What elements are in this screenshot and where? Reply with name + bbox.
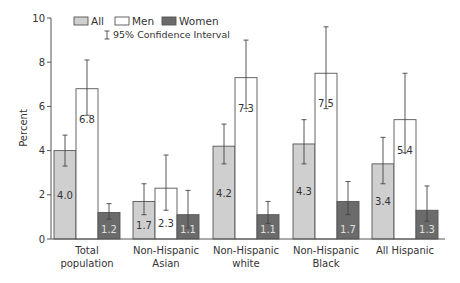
y-tick-label: 6 (39, 101, 45, 112)
y-tick-label: 4 (39, 145, 45, 156)
y-axis-label: Percent (18, 109, 29, 147)
y-tick-label: 8 (39, 57, 45, 68)
legend: AllMenWomen95% Confidence Interval (74, 15, 230, 40)
value-label: 6.8 (79, 114, 95, 125)
legend-swatch-all (74, 17, 88, 25)
bar-group: 1.72.31.1 (133, 155, 199, 239)
bars: 4.06.81.21.72.31.14.27.31.14.37.51.73.45… (54, 27, 438, 239)
bar-group: 4.37.51.7 (293, 27, 359, 239)
bar-chart: 0246810 Percent 4.06.81.21.72.31.14.27.3… (0, 0, 460, 283)
legend-swatch-men (115, 17, 129, 25)
category-label: Total (74, 245, 98, 256)
value-label: 4.3 (296, 186, 312, 197)
value-label: 7.5 (318, 98, 334, 109)
bar-group: 4.06.81.2 (54, 60, 120, 239)
x-axis: TotalpopulationNon-HispanicAsianNon-Hisp… (51, 239, 445, 269)
value-label: 2.3 (158, 218, 174, 229)
category-label: Non-Hispanic (293, 245, 359, 256)
category-label: Non-Hispanic (213, 245, 279, 256)
value-label: 1.2 (101, 224, 117, 235)
value-label: 7.3 (238, 103, 254, 114)
value-label: 4.2 (216, 188, 232, 199)
value-label: 1.1 (180, 224, 196, 235)
y-tick-label: 0 (39, 234, 45, 245)
category-label: population (60, 258, 113, 269)
legend-label: Women (179, 15, 219, 27)
value-label: 1.1 (260, 224, 276, 235)
bar-group: 3.45.41.3 (372, 73, 438, 239)
y-tick-label: 10 (32, 13, 45, 24)
category-label: Asian (152, 258, 179, 269)
legend-label: Men (132, 15, 154, 27)
value-label: 1.3 (419, 224, 435, 235)
category-label: Non-Hispanic (133, 245, 199, 256)
value-label: 1.7 (340, 224, 356, 235)
value-label: 5.4 (397, 145, 413, 156)
category-label: Black (312, 258, 339, 269)
value-label: 1.7 (136, 220, 152, 231)
y-tick-label: 2 (39, 189, 45, 200)
bar-group: 4.27.31.1 (213, 40, 279, 239)
category-label: white (232, 258, 259, 269)
y-axis: 0246810 (32, 13, 51, 245)
value-label: 3.4 (375, 196, 391, 207)
value-label: 4.0 (57, 190, 73, 201)
legend-swatch-women (162, 17, 176, 25)
category-label: All Hispanic (376, 245, 434, 256)
ci-legend-label: 95% Confidence Interval (113, 29, 230, 40)
legend-label: All (91, 15, 104, 27)
